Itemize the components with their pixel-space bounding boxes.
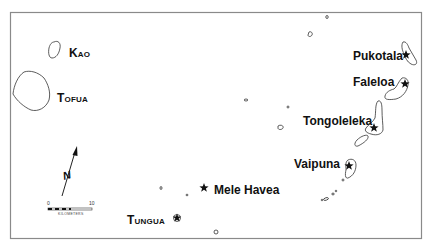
islet-outline: [278, 125, 283, 129]
label-kao: Kao: [69, 47, 90, 59]
label-tungua: Tungua: [127, 214, 165, 226]
islet-outline: [326, 16, 328, 19]
label-tongoleleka: Tongoleleka: [303, 115, 372, 127]
islet-outline: [186, 194, 188, 196]
islet-outline: [355, 135, 368, 146]
islet-outline: [287, 106, 289, 108]
islet-outline: [160, 187, 162, 190]
scale-min-label: 0: [47, 201, 50, 206]
island-pukotala-outline: [402, 42, 417, 65]
scale-max-label: 10: [89, 201, 95, 206]
island-kao-outline: [49, 41, 61, 58]
islet-outline: [214, 230, 218, 234]
label-tofua: Tofua: [57, 92, 88, 104]
islet-outline: [244, 99, 248, 101]
scale-unit-label: Kilometers: [58, 213, 84, 217]
label-mele-havea: Mele Havea: [214, 184, 279, 196]
islet-outline: [332, 193, 335, 195]
north-arrow-head-icon: [73, 146, 78, 156]
islet-outline: [308, 32, 312, 37]
scale-bar: [48, 208, 92, 210]
islet-outline: [335, 190, 337, 192]
island-tofua-outline: [13, 71, 50, 110]
islet-outline: [321, 199, 323, 201]
label-faleloa: Faleloa: [353, 76, 394, 88]
label-vaipuna: Vaipuna: [294, 158, 340, 170]
star-marker-mele-havea: [199, 183, 208, 192]
islet-outline: [342, 179, 344, 181]
islet-outline: [323, 197, 329, 201]
label-pukotala: Pukotala: [353, 50, 403, 62]
star-marker-faleloa: [400, 79, 409, 88]
